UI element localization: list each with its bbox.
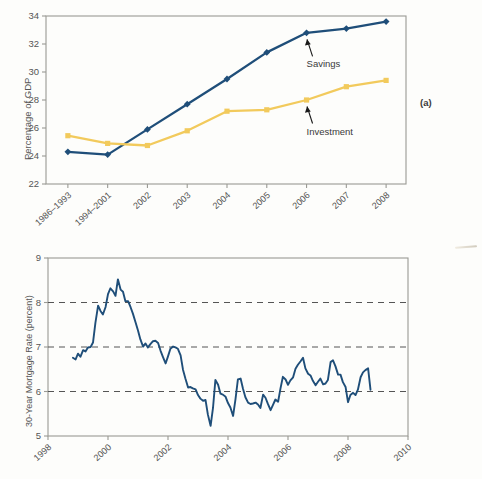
x-tick-label-panel-b: 1998: [32, 442, 54, 463]
annotation-label-savings: Savings: [307, 58, 341, 69]
y-tick-label-panel-a: 32: [28, 38, 39, 49]
y-tick-label-panel-b: 7: [36, 341, 41, 352]
y-tick-label-panel-b: 8: [36, 297, 41, 308]
data-point-investment: [384, 78, 389, 83]
x-tick-label-panel-b: 2002: [152, 442, 174, 463]
data-point-investment: [224, 109, 229, 114]
y-tick-label-panel-a: 24: [28, 150, 39, 161]
chart-panel-savings-investment: (a) Percentage of GDP 222426283032341986…: [0, 0, 482, 240]
x-tick-label-panel-b: 2008: [332, 442, 354, 463]
y-axis-label-panel-b: 30-Year Mortgage Rate (percent): [24, 295, 34, 427]
data-point-savings: [64, 148, 71, 155]
x-tick-label-panel-a: 2008: [370, 190, 392, 211]
y-tick-label-panel-a: 34: [28, 10, 39, 21]
x-tick-label-panel-a: 1986–1993: [33, 190, 73, 228]
x-tick-label-panel-b: 2004: [212, 442, 234, 463]
x-tick-label-panel-a: 2002: [131, 190, 153, 211]
x-tick-label-panel-a: 1994–2001: [73, 190, 113, 228]
x-tick-label-panel-a: 2003: [171, 190, 193, 211]
chart-panel-mortgage-rate: (b) 567891998200020022004200620082010: [0, 240, 482, 479]
y-tick-label-panel-a: 22: [28, 178, 39, 189]
data-point-savings: [383, 18, 390, 25]
y-tick-label-panel-b: 9: [36, 252, 41, 263]
data-point-investment: [185, 128, 190, 133]
y-tick-label-panel-a: 28: [28, 94, 39, 105]
y-tick-label-panel-b: 6: [36, 386, 41, 397]
x-tick-label-panel-b: 2010: [392, 442, 414, 463]
x-tick-label-panel-b: 2006: [272, 442, 294, 463]
x-tick-label-panel-a: 2004: [211, 190, 233, 211]
y-tick-label-panel-a: 30: [28, 66, 39, 77]
annotation-label-investment: Investment: [307, 126, 354, 137]
data-point-investment: [304, 97, 309, 102]
data-point-investment: [145, 143, 150, 148]
series-line-mortgage-rate: [73, 279, 371, 425]
data-point-investment: [65, 133, 70, 138]
plot-area-panel-b: 567891998200020022004200620082010: [0, 240, 482, 479]
x-tick-label-panel-a: 2005: [251, 190, 273, 211]
x-tick-label-panel-a: 2007: [330, 190, 352, 211]
data-point-investment: [264, 107, 269, 112]
x-tick-label-panel-b: 2000: [92, 442, 114, 463]
data-point-investment: [105, 141, 110, 146]
y-tick-label-panel-a: 26: [28, 122, 39, 133]
data-point-investment: [344, 84, 349, 89]
plot-area-panel-a: 222426283032341986–19931994–200120022003…: [0, 0, 482, 240]
data-point-savings: [343, 25, 350, 32]
x-tick-label-panel-a: 2006: [290, 190, 312, 211]
y-tick-label-panel-b: 5: [36, 430, 41, 441]
